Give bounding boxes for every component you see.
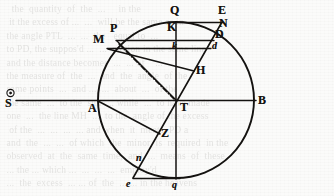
point-label-Z: Z (161, 127, 169, 139)
point-label-H: H (196, 64, 205, 76)
point-label-e: e (126, 179, 130, 189)
point-label-d: d (212, 41, 217, 51)
point-label-B: B (258, 94, 266, 106)
point-label-D: D (215, 28, 224, 40)
segment-dash-dot-P-to-T (119, 44, 175, 100)
point-label-A: A (88, 102, 97, 114)
segment-M-to-H (108, 49, 194, 71)
point-label-Q: Q (170, 4, 179, 16)
point-label-M: M (93, 33, 104, 45)
sun-icon-center-dot (10, 92, 12, 94)
point-label-T: T (180, 101, 188, 113)
point-label-E: E (218, 4, 226, 16)
point-label-S: S (5, 97, 12, 109)
point-label-n: n (136, 153, 142, 163)
point-label-k: k (172, 41, 177, 51)
diagram-page: the quantity of the ... in the it the ex… (0, 0, 334, 196)
segment-A-to-Z (98, 101, 160, 134)
point-label-K: K (167, 21, 176, 33)
point-label-q: q (172, 180, 177, 190)
point-label-P: P (110, 22, 117, 34)
